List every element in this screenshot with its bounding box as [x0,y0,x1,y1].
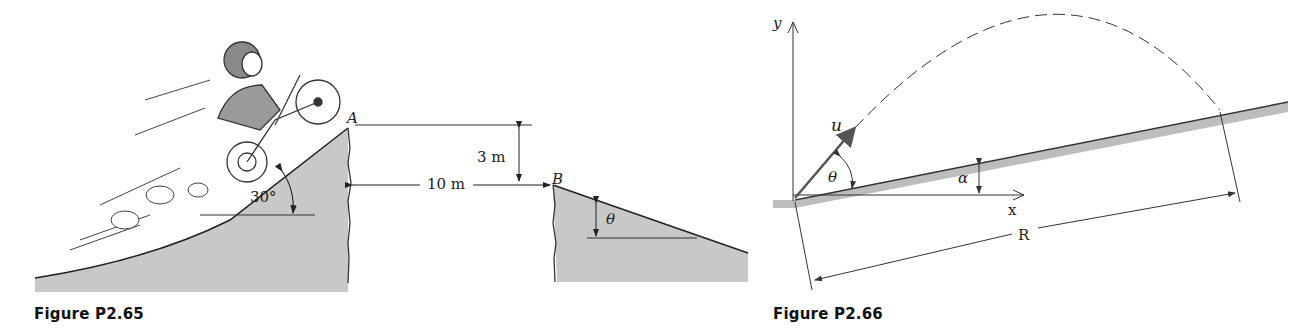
projectile-incline-diagram [760,0,1316,329]
point-b-label: B [552,172,563,187]
x-axis-label: x [1008,203,1016,218]
point-a-label: A [347,111,358,126]
motorcycle-jump-diagram [0,0,760,329]
dust-cloud-icon [111,183,208,229]
figure-caption: Figure P2.66 [773,305,883,323]
launch-angle-label: θ [828,170,837,185]
incline-angle-label: α [958,171,968,186]
figure-p2-65: A B 3 m 10 m 30° θ Figure P2.65 [0,0,760,329]
figure-p2-66: y x u θ α R Figure P2.66 [760,0,1316,329]
ramp-angle-label: 30° [250,190,277,205]
ramp-ground [35,128,348,292]
velocity-label: u [831,117,842,134]
gap-label: 10 m [427,177,465,192]
range-label: R [1018,228,1029,243]
motion-lines-icon [70,80,210,250]
trajectory-path [855,14,1220,128]
height-label: 3 m [477,150,506,165]
landing-angle-label: θ [606,212,615,227]
landing-ground [553,185,748,282]
velocity-vector [795,130,853,198]
y-axis-label: y [773,16,781,31]
figure-caption: Figure P2.65 [34,305,144,323]
